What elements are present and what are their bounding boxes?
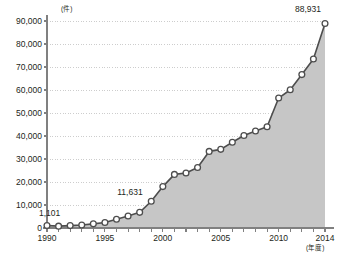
data-point	[229, 139, 235, 145]
data-point	[241, 133, 247, 139]
y-axis-tick-label: 40,000	[0, 132, 42, 141]
chart-container: (件) (年度) 010,00020,00030,00040,00050,000…	[0, 0, 338, 256]
data-point	[311, 56, 317, 62]
y-axis-tick-label: 0	[0, 224, 42, 233]
y-axis-tick-label: 70,000	[0, 63, 42, 72]
x-axis-tick-label: 2005	[201, 234, 241, 243]
data-point	[218, 146, 224, 152]
data-point	[79, 222, 85, 228]
data-point	[183, 170, 189, 176]
data-point	[253, 128, 259, 134]
y-axis-tick-label: 10,000	[0, 201, 42, 210]
data-point	[299, 72, 305, 78]
data-point	[125, 213, 131, 219]
data-point-label: 11,631	[117, 188, 142, 197]
data-point	[195, 165, 201, 171]
data-point	[102, 220, 108, 226]
data-point	[264, 124, 270, 130]
x-axis-tick-label: 1990	[27, 234, 67, 243]
data-point	[67, 223, 73, 229]
data-point	[56, 223, 62, 229]
y-axis-tick-label: 50,000	[0, 109, 42, 118]
y-axis-tick-label: 80,000	[0, 40, 42, 49]
area-fill	[47, 23, 325, 228]
data-point	[287, 87, 293, 93]
data-point	[322, 21, 328, 27]
data-point	[114, 216, 120, 222]
y-axis-tick-label: 30,000	[0, 155, 42, 164]
x-axis-tick-label: 2000	[143, 234, 183, 243]
x-axis-tick-label: 2010	[259, 234, 299, 243]
y-axis-tick-label: 90,000	[0, 17, 42, 26]
y-axis-tick-label: 20,000	[0, 178, 42, 187]
x-axis-tick-label: 1995	[85, 234, 125, 243]
data-point-label: 88,931	[295, 5, 321, 14]
data-point	[148, 198, 154, 204]
data-point	[172, 172, 178, 178]
data-point	[137, 209, 143, 215]
data-point	[206, 149, 212, 155]
data-point	[160, 184, 166, 190]
data-point	[44, 223, 50, 229]
data-point	[90, 221, 96, 227]
x-axis-tick-label: 2014	[305, 234, 338, 243]
y-axis-tick-label: 60,000	[0, 86, 42, 95]
data-point	[276, 95, 282, 101]
data-point-label: 1,101	[39, 209, 60, 218]
